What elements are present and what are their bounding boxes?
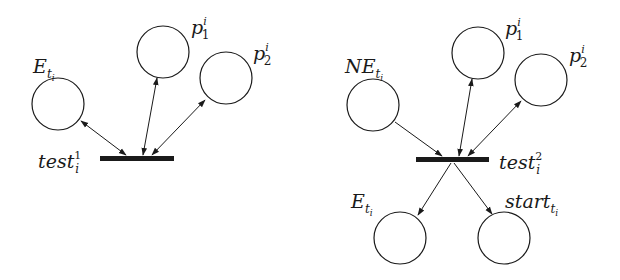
place-E-right: [374, 212, 426, 264]
label-test2: test2i: [499, 150, 542, 177]
arc-E-test1: [81, 121, 126, 155]
place-p2-left: [200, 52, 252, 104]
arc-p1-test1: [143, 78, 157, 155]
left-petri-net: Eti pi1 pi2 test1i: [32, 15, 271, 176]
transition-test1: [100, 156, 174, 161]
petri-net-diagrams: Eti pi1 pi2 test1i NEti pi1 pi2 test2i E…: [0, 0, 620, 280]
place-p2-right: [515, 54, 567, 106]
place-E-left: [32, 78, 84, 130]
right-petri-net: NEti pi1 pi2 test2i Eti startti: [344, 16, 587, 264]
place-p1-right: [452, 27, 504, 79]
label-NE-right: NEti: [344, 55, 383, 83]
label-test1: test1i: [38, 149, 81, 176]
transition-test2: [416, 157, 489, 162]
label-p1-left: pi1: [191, 15, 209, 42]
arc-p2-test1: [152, 100, 205, 155]
label-E-right: Eti: [350, 190, 373, 218]
label-p1-right: pi1: [505, 16, 523, 43]
label-p2-left: pi2: [253, 41, 271, 68]
place-start-right: [478, 212, 530, 264]
arc-test2-start: [454, 163, 492, 214]
arc-p1-test2: [459, 79, 472, 156]
arc-p2-test2: [468, 101, 521, 156]
place-p1-left: [137, 26, 189, 78]
arc-NE-test2: [395, 122, 442, 156]
label-p2-right: pi2: [569, 43, 587, 70]
place-NE-right: [347, 79, 399, 131]
label-E-left: Eti: [32, 55, 55, 83]
arc-test2-E: [418, 163, 451, 215]
